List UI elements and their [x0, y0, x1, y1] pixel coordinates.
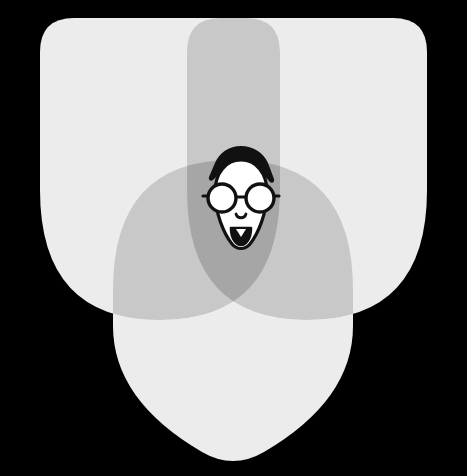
- venn-canvas: Three-Set Venn Diagram With Central Avat…: [0, 0, 467, 476]
- venn-diagram: [0, 0, 467, 476]
